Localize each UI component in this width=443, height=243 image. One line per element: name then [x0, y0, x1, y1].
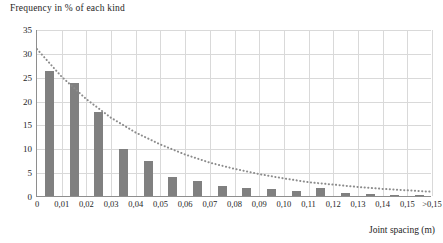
y-tick-label: 0: [28, 193, 33, 202]
y-tick-label: 30: [23, 49, 32, 58]
x-tick-label: 0,12: [326, 200, 341, 209]
x-tick-label: 0,04: [128, 200, 143, 209]
trendline: [37, 30, 432, 197]
chart-root: Frequency in % of each kind 051015202530…: [0, 0, 443, 243]
x-tick-label: 0,01: [54, 200, 69, 209]
chart-title: Frequency in % of each kind: [10, 3, 125, 13]
y-tick-label: 35: [23, 26, 32, 35]
y-tick-label: 20: [23, 97, 32, 106]
x-tick-label: 0,02: [79, 200, 94, 209]
y-tick-label: 10: [23, 145, 32, 154]
x-tick-label: 0,13: [351, 200, 366, 209]
x-tick-label: 0,14: [375, 200, 390, 209]
x-tick-label: 0,07: [202, 200, 217, 209]
x-axis-title: Joint spacing (m): [369, 225, 435, 235]
x-tick-label: >0,15: [422, 200, 442, 209]
plot-area: 05101520253035 00,010,020,030,040,050,06…: [36, 30, 431, 197]
x-tick-label: 0,03: [104, 200, 119, 209]
y-tick-label: 25: [23, 73, 32, 82]
x-tick-label: 0,09: [252, 200, 267, 209]
x-tick-label: 0,05: [153, 200, 168, 209]
y-tick-label: 15: [23, 121, 32, 130]
gridline-vertical: [432, 30, 433, 196]
x-tick-label: 0,08: [227, 200, 242, 209]
y-tick-label: 5: [28, 169, 33, 178]
trendline-path: [37, 49, 432, 192]
x-tick-label: 0,11: [301, 200, 316, 209]
x-tick-label: 0,15: [400, 200, 415, 209]
x-tick-label: 0,10: [276, 200, 291, 209]
x-tick-label: 0,06: [178, 200, 193, 209]
x-tick-label: 0: [35, 200, 39, 209]
